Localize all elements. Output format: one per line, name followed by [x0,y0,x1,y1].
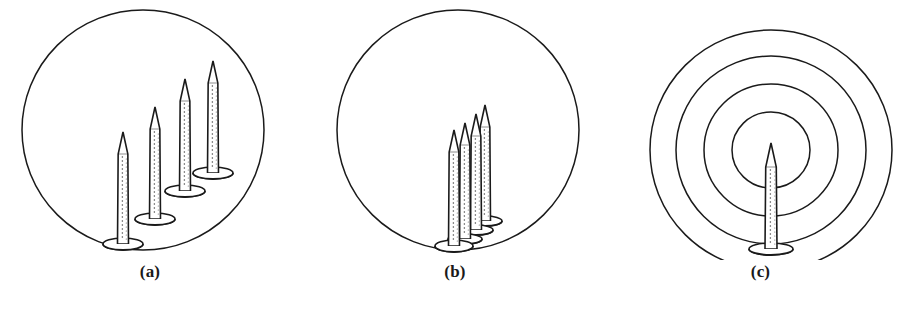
stipple-dot [188,153,189,154]
stipple-dot [774,235,775,236]
stipple-dot [122,236,124,238]
stipple-dot [464,183,466,185]
stipple-dot [122,196,124,198]
nail-base-front-arc [135,219,175,225]
stipple-dot [453,202,455,204]
stipple-dot [126,162,127,163]
stipple-dot [770,185,772,187]
stipple-dot [774,239,775,240]
stipple-dot [475,218,477,220]
stipple-dot [126,218,127,219]
nail-shaft [471,114,482,230]
stipple-dot [484,181,486,183]
stipple-dot [212,97,214,99]
stipple-dot [122,232,124,234]
stipple-dot [184,111,186,113]
stipple-dot [154,179,156,181]
stipple-dot [774,215,775,216]
stipple-dot [216,143,217,144]
stipple-dot [184,143,186,145]
stipple-dot [488,183,489,184]
stipple-dot [774,207,775,208]
stipple-dot [122,212,124,214]
stipple-dot [154,135,156,137]
stipple-dot [484,177,486,179]
stipple-dot [184,135,186,137]
stipple-dot [488,199,489,200]
stipple-dot [464,155,466,157]
stipple-dot [216,107,217,108]
stipple-dot [484,173,486,175]
stipple-dot [770,233,772,235]
stipple-dot [464,219,466,221]
stipple-dot [158,149,159,150]
stipple-dot [212,89,214,91]
stipple-dot [457,192,458,193]
stipple-dot [216,151,217,152]
stipple-dot [468,185,469,186]
nail-base-front-arc [193,173,233,179]
stipple-dot [188,105,189,106]
stipple-dot [488,143,489,144]
stipple-dot [453,230,455,232]
panel-b-caption: (b) [305,262,605,282]
stipple-dot [457,188,458,189]
nail-base-front-arc [749,249,793,255]
stipple-dot [126,214,127,215]
stipple-dot [126,206,127,207]
stipple-dot [188,177,189,178]
stipple-dot [774,195,775,196]
stipple-dot [770,241,772,243]
stipple-dot [475,210,477,212]
stipple-dot [154,159,156,161]
stipple-dot [188,173,189,174]
stipple-dot [475,150,477,152]
panel-a-caption: (a) [0,262,300,282]
stipple-dot [154,143,156,145]
stipple-dot [479,156,480,157]
stipple-dot [188,181,189,182]
stipple-dot [479,200,480,201]
stipple-dot [484,197,486,199]
stipple-dot [158,141,159,142]
stipple-dot [468,173,469,174]
stipple-dot [453,238,455,240]
stipple-dot [488,135,489,136]
stipple-dot [158,185,159,186]
stipple-dot [479,196,480,197]
stipple-dot [488,203,489,204]
stipple-dot [122,220,124,222]
stipple-dot [216,135,217,136]
figure-root: (a) (b) (c) [0,0,911,313]
stipple-dot [212,105,214,107]
stipple-dot [188,109,189,110]
stipple-dot [468,205,469,206]
stipple-dot [457,224,458,225]
stipple-dot [479,164,480,165]
stipple-dot [188,129,189,130]
stipple-dot [457,208,458,209]
nail-shaft [460,123,471,239]
stipple-dot [453,174,455,176]
stipple-dot [475,182,477,184]
stipple-dot [464,187,466,189]
stipple-dot [122,156,124,158]
stipple-dot [468,177,469,178]
stipple-dot [770,173,772,175]
stipple-dot [488,131,489,132]
stipple-dot [479,152,480,153]
stipple-dot [158,197,159,198]
stipple-dot [479,204,480,205]
stipple-dot [188,145,189,146]
stipple-dot [468,165,469,166]
stipple-dot [464,203,466,205]
stipple-dot [216,111,217,112]
stipple-dot [774,223,775,224]
stipple-dot [475,206,477,208]
stipple-dot [154,147,156,149]
stipple-dot [468,149,469,150]
stipple-dot [122,160,124,162]
stipple-dot [216,131,217,132]
stipple-dot [484,157,486,159]
stipple-dot [468,157,469,158]
